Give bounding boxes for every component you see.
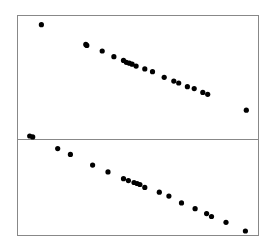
bottom-data-point (193, 206, 198, 211)
top-data-point (205, 92, 210, 97)
top-panel (39, 22, 249, 113)
top-data-point (200, 90, 205, 95)
bottom-data-point (105, 169, 110, 174)
bottom-data-point (55, 146, 60, 151)
bottom-data-point (126, 178, 131, 183)
top-data-point (244, 108, 249, 113)
bottom-data-point (121, 176, 126, 181)
bottom-panel (27, 133, 248, 233)
scatter-chart (0, 0, 271, 249)
top-data-point (176, 80, 181, 85)
bottom-data-point (243, 228, 248, 233)
top-data-point (185, 84, 190, 89)
bottom-data-point (204, 211, 209, 216)
top-data-point (39, 22, 44, 27)
top-data-point (192, 86, 197, 91)
bottom-data-point (137, 182, 142, 187)
bottom-data-point (90, 163, 95, 168)
bottom-data-point (157, 190, 162, 195)
bottom-data-point (209, 214, 214, 219)
bottom-data-point (30, 134, 35, 139)
top-data-point (134, 64, 139, 69)
bottom-data-point (179, 200, 184, 205)
bottom-data-point (166, 194, 171, 199)
top-data-point (171, 79, 176, 84)
top-data-point (162, 75, 167, 80)
bottom-data-point (142, 185, 147, 190)
top-data-point (150, 69, 155, 74)
bottom-data-point (68, 152, 73, 157)
top-data-point (111, 54, 116, 59)
plot-frame (17, 15, 259, 236)
top-data-point (84, 43, 89, 48)
top-data-point (142, 66, 147, 71)
bottom-data-point (223, 220, 228, 225)
top-data-point (100, 48, 105, 53)
